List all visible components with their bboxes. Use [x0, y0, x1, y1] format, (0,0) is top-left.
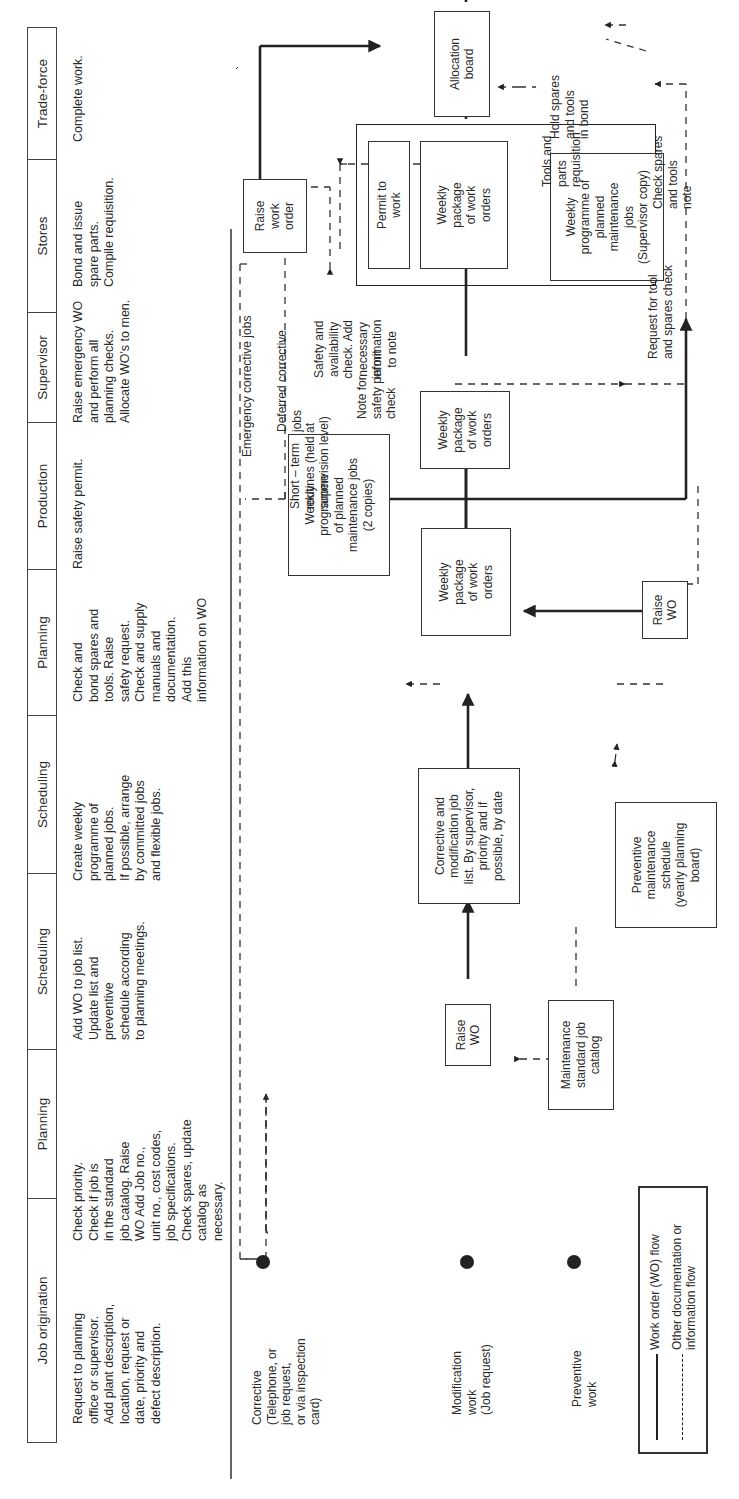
maintenance-catalog-node: Maintenance standard job catalog — [548, 1000, 614, 1110]
preventive-source-label: Preventive work — [570, 1350, 599, 1407]
corrective-source-label: Corrective (Telephone, or job request, o… — [250, 1338, 323, 1425]
raise-wo-2-node: Raise WO — [642, 581, 688, 639]
permit-to-work-node: Permit to work — [368, 141, 410, 269]
modification-source-label: Modification work (Job request) — [450, 1344, 494, 1415]
legend-solid-line — [656, 1354, 658, 1440]
flowchart-stage: Job origination Planning Scheduling Sche… — [0, 0, 739, 1499]
tools-parts-requisition-label: Tools and parts requisition — [540, 132, 584, 187]
pm-schedule-node: Preventive maintenance schedule (yearly … — [615, 802, 717, 928]
allocation-board-node: Allocation board — [434, 11, 490, 117]
legend-solid-label: Work order (WO) flow — [648, 1234, 662, 1350]
request-tool-spares-label: Request for tool and spares check — [646, 265, 675, 359]
modification-source-dot — [460, 1255, 474, 1269]
corrective-source-dot — [256, 1255, 270, 1269]
weekly-package-1-node: Weekly package of work orders — [421, 528, 511, 636]
emergency-corrective-label: Emergency corrective jobs — [240, 316, 255, 457]
legend-dashed-label: Other documentation or information flow — [670, 1224, 698, 1350]
legend-dashed-line — [682, 1354, 683, 1440]
legend: Work order (WO) flow Other documentation… — [638, 1186, 708, 1454]
raise-wo-node: Raise WO — [445, 1004, 491, 1066]
preventive-source-dot — [567, 1255, 581, 1269]
check-spares-label: Check spares and tools note — [651, 136, 695, 209]
corrective-list-node: Corrective and modification job list. By… — [418, 768, 520, 904]
raise-work-order-node: Raise work order — [243, 179, 307, 253]
safety-availability-label: Safety and availability check. Add neces… — [312, 320, 399, 379]
hold-spares-label: Hold spares and tools in bond — [548, 75, 592, 139]
weekly-package-3-node: Weekly package of work orders — [420, 141, 508, 269]
short-term-routines-label: Short – term routines (held at supervisi… — [288, 416, 332, 509]
weekly-package-2-node: Weekly package of work orders — [420, 391, 510, 469]
